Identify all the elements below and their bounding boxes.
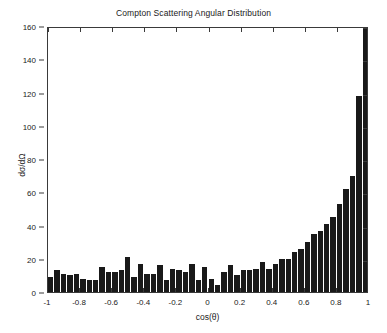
x-tick-mark (79, 288, 80, 293)
x-tick-mark-top (48, 28, 49, 32)
y-tick-mark (39, 27, 44, 28)
y-tick-mark (39, 93, 44, 94)
y-tick-mark-right (363, 261, 367, 262)
y-tick-label: 160 (0, 23, 36, 32)
x-tick-mark-top (273, 28, 274, 32)
chart-title: Compton Scattering Angular Distribution (0, 8, 387, 18)
histogram-bars (48, 28, 367, 292)
y-tick-mark (39, 193, 44, 194)
x-axis-label: cos(θ) (47, 312, 368, 322)
chart-figure: Compton Scattering Angular Distribution … (0, 0, 387, 333)
x-tick-mark-top (144, 28, 145, 32)
histogram-bar (363, 27, 368, 292)
y-tick-label: 100 (0, 122, 36, 131)
y-tick-mark (39, 126, 44, 127)
y-tick-label: 60 (0, 189, 36, 198)
plot-area (47, 27, 368, 293)
y-axis: dσ/dΩ 020406080100120140160 (0, 0, 47, 333)
y-tick-mark-right (363, 128, 367, 129)
x-tick-mark-top (305, 28, 306, 32)
y-tick-mark (39, 259, 44, 260)
x-tick-mark (272, 288, 273, 293)
x-tick-mark (175, 288, 176, 293)
x-tick-label: 1 (348, 298, 387, 307)
y-tick-mark (39, 160, 44, 161)
y-tick-mark (39, 226, 44, 227)
x-tick-mark (367, 288, 368, 293)
x-tick-mark (47, 288, 48, 293)
y-tick-mark-right (363, 61, 367, 62)
y-tick-label: 40 (0, 222, 36, 231)
y-tick-label: 80 (0, 156, 36, 165)
y-tick-mark-right (363, 95, 367, 96)
x-tick-mark-top (176, 28, 177, 32)
x-tick-mark (304, 288, 305, 293)
x-tick-mark-top (209, 28, 210, 32)
x-tick-mark (240, 288, 241, 293)
x-tick-mark (143, 288, 144, 293)
x-tick-mark-top (337, 28, 338, 32)
x-tick-mark (111, 288, 112, 293)
y-tick-label: 20 (0, 255, 36, 264)
y-tick-label: 140 (0, 56, 36, 65)
y-tick-mark-right (363, 194, 367, 195)
y-tick-mark-right (363, 228, 367, 229)
x-axis: cos(θ) -1-0.8-0.6-0.4-0.200.20.40.60.81 (0, 293, 387, 333)
y-tick-mark-right (363, 28, 367, 29)
y-tick-mark (39, 60, 44, 61)
x-tick-mark-top (80, 28, 81, 32)
x-tick-mark (336, 288, 337, 293)
y-tick-mark-right (363, 161, 367, 162)
y-tick-label: 120 (0, 89, 36, 98)
x-tick-mark-top (241, 28, 242, 32)
x-tick-mark-top (112, 28, 113, 32)
x-tick-mark (208, 288, 209, 293)
